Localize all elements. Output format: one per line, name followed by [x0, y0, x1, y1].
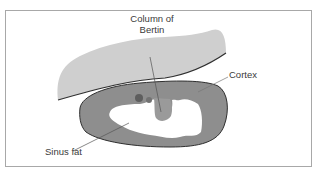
label-column-of-bertin-line1: Column of	[122, 13, 182, 24]
label-sinus-fat: Sinus fat	[45, 146, 82, 157]
vessel-dark-large	[135, 94, 143, 102]
label-cortex: Cortex	[229, 69, 257, 80]
vessel-dark-small	[146, 97, 152, 103]
column-of-bertin	[154, 98, 172, 121]
label-column-of-bertin: Column of Bertin	[122, 13, 182, 35]
label-column-of-bertin-line2: Bertin	[122, 24, 182, 35]
